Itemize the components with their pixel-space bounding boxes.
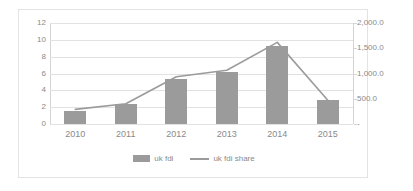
y-axis-right-tick-label: - — [357, 120, 360, 128]
x-axis-tick-label: 2010 — [55, 129, 95, 139]
legend-item-1[interactable]: uk fdi — [133, 154, 173, 163]
x-axis-tick-label: 2012 — [156, 129, 196, 139]
chart-legend: uk fdiuk fdi share — [19, 154, 369, 163]
bar-swatch-icon — [133, 155, 150, 162]
y-axis-right-tick-mark — [354, 124, 357, 125]
y-axis-left-tick-label: 2 — [42, 103, 46, 111]
legend-item-2[interactable]: uk fdi share — [190, 154, 254, 163]
gridline — [50, 124, 353, 125]
y-axis-right-tick-label: 1,500.0 — [357, 44, 384, 52]
x-axis-tick-label: 2011 — [106, 129, 146, 139]
y-axis-right-tick-mark — [354, 23, 357, 24]
y-axis-right-tick-mark — [354, 74, 357, 75]
y-axis-right-tick-label: 1,000.0 — [357, 70, 384, 78]
y-axis-right-tick-label: 500.0 — [357, 95, 377, 103]
legend-item-label: uk fdi share — [213, 154, 254, 163]
line-swatch-icon — [190, 158, 209, 160]
y-axis-left-tick-label: 12 — [37, 19, 46, 27]
chart-container: 024681012 -500.01,000.01,500.02,000.0 uk… — [18, 9, 368, 178]
x-axis-tick-label: 2014 — [257, 129, 297, 139]
x-axis-tick-label: 2015 — [308, 129, 348, 139]
y-axis-right-tick-label: 2,000.0 — [357, 19, 384, 27]
y-axis-left-tick-label: 0 — [42, 120, 46, 128]
y-axis-right-tick-mark — [354, 99, 357, 100]
x-axis-tick-label: 2013 — [207, 129, 247, 139]
y-axis-left-tick-label: 4 — [42, 86, 46, 94]
y-axis-right-tick-mark — [354, 48, 357, 49]
y-axis-left-tick-label: 10 — [37, 36, 46, 44]
y-axis-left-tick-label: 6 — [42, 70, 46, 78]
line-series-uk-fdi-share — [50, 23, 353, 124]
line-path — [75, 42, 327, 109]
legend-item-label: uk fdi — [154, 154, 173, 163]
y-axis-left-tick-label: 8 — [42, 53, 46, 61]
